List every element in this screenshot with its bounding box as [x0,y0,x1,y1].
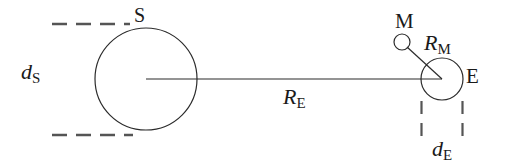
sun-diameter-label: dS [21,61,41,83]
earth-label: E [466,66,479,87]
sun-diameter-label-base: d [21,59,32,84]
sun-diameter-label-sub: S [32,70,41,86]
sun-earth-distance-label: RE [283,86,306,108]
sun-earth-distance-label-base: R [283,84,296,109]
earth-diameter-label-base: d [432,136,443,161]
sun-earth-distance-label-sub: E [296,95,305,111]
earth-moon-distance-label: RM [424,32,451,54]
astronomy-scale-diagram: S dS RE M RM E dE [0,0,508,165]
sun-label: S [134,5,145,25]
earth-diameter-label: dE [432,138,452,160]
earth-diameter-label-sub: E [443,147,452,163]
earth-moon-distance-label-base: R [424,30,437,55]
earth-moon-distance-label-sub: M [437,41,451,57]
moon-label: M [395,11,414,32]
